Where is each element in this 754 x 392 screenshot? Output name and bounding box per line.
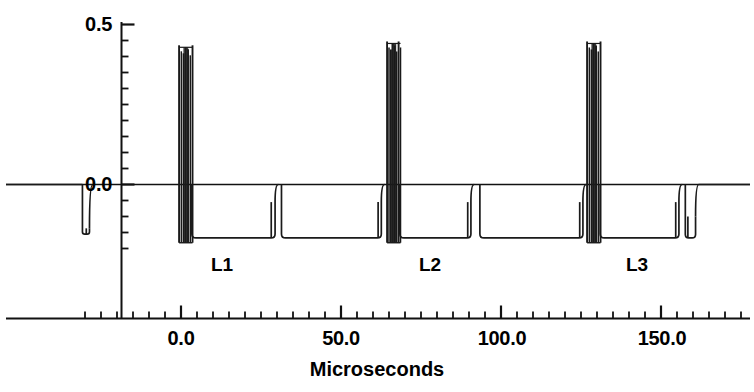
x-tick-label-0.0: 0.0 bbox=[141, 327, 221, 350]
x-axis-ticks bbox=[85, 306, 741, 319]
x-axis-title: Microseconds bbox=[0, 358, 754, 381]
series-label-l3: L3 bbox=[626, 254, 648, 276]
signal-traces bbox=[6, 41, 750, 242]
y-tick-label-0.5: 0.5 bbox=[56, 13, 112, 36]
x-tick-label-50.0: 50.0 bbox=[301, 327, 381, 350]
x-tick-label-150.0: 150.0 bbox=[619, 327, 705, 350]
x-tick-label-100.0: 100.0 bbox=[459, 327, 545, 350]
series-label-l1: L1 bbox=[211, 254, 233, 276]
chart-figure: 0.5 0.0 0.0 50.0 100.0 150.0 L1 L2 L3 Mi… bbox=[0, 0, 754, 392]
y-tick-label-0.0: 0.0 bbox=[56, 173, 112, 196]
series-label-l2: L2 bbox=[419, 254, 441, 276]
y-axis-ticks bbox=[122, 25, 135, 249]
